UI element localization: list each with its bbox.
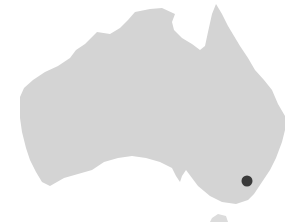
location-marker[interactable]: [242, 176, 253, 187]
australia-map: [0, 0, 303, 222]
mainland-shape: [20, 4, 285, 204]
tasmania-shape: [210, 214, 228, 222]
